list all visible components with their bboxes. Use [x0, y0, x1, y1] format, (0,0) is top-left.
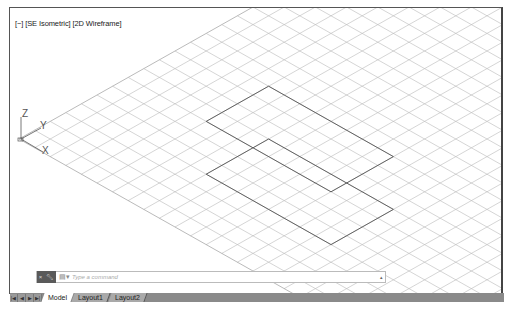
wrench-icon[interactable]: 🔧︎	[46, 273, 54, 280]
view-cube-menu[interactable]: [SE Isometric]	[25, 19, 70, 28]
layout-tab-bar: |◀ ◀ ▶ ▶| Model Layout1 Layout2	[10, 293, 504, 302]
command-history-dropdown-icon[interactable]: ▴	[377, 274, 385, 280]
tab-layout1[interactable]: Layout1	[71, 293, 110, 302]
command-line: × 🔧︎ ▤▾ ▴	[36, 271, 386, 283]
tab-layout2[interactable]: Layout2	[108, 293, 147, 302]
close-icon[interactable]: ×	[39, 274, 43, 280]
ucs-x-label: X	[42, 145, 49, 156]
recent-commands-icon[interactable]: ▤▾	[59, 273, 70, 281]
viewport-label: [−] [SE Isometric] [2D Wireframe]	[15, 19, 122, 28]
command-input[interactable]	[70, 272, 377, 282]
ucs-z-label: Z	[22, 108, 28, 119]
ucs-icon: ZYX	[18, 108, 49, 156]
ucs-y-label: Y	[40, 120, 47, 131]
visual-style-menu[interactable]: [2D Wireframe]	[73, 19, 122, 28]
tab-model[interactable]: Model	[41, 293, 73, 302]
command-line-grip[interactable]: × 🔧︎	[37, 271, 56, 283]
first-tab-button[interactable]: |◀	[10, 294, 18, 302]
isometric-grid: ZYX	[9, 7, 503, 294]
viewport-controls-menu[interactable]: [−]	[15, 19, 23, 28]
next-tab-button[interactable]: ▶	[26, 294, 34, 302]
drawing-viewport[interactable]: ZYX [−] [SE Isometric] [2D Wireframe]	[9, 7, 503, 294]
previous-tab-button[interactable]: ◀	[18, 294, 26, 302]
